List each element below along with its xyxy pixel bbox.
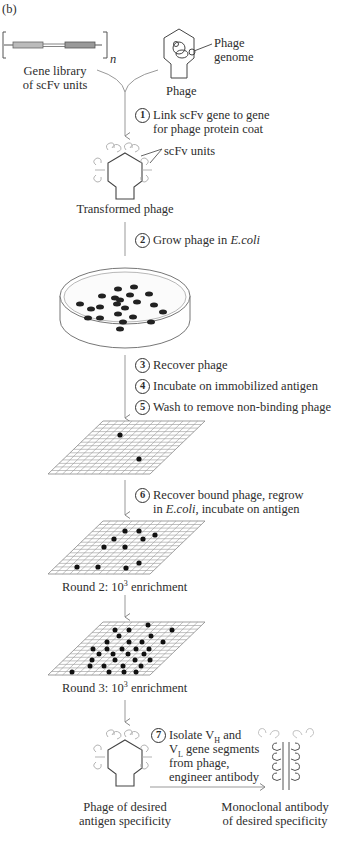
step-7-line2-suffix: gene segments (183, 742, 259, 756)
step-7-line3: from phage, (169, 756, 259, 770)
step-4: 4 Incubate on immobilized antigen (135, 379, 318, 394)
repeat-n-label: n (110, 52, 116, 66)
transformed-phage-icon (94, 143, 162, 199)
step-7-line2-prefix: V (169, 742, 178, 756)
merge-curve-left (97, 70, 125, 92)
phage-genome-label-line2: genome (214, 50, 254, 64)
step-7: 7 Isolate VH and VL gene segments from p… (151, 728, 259, 784)
step-1: 1 Link scFv gene to gene for phage prote… (135, 108, 270, 136)
gene-library-label-line1: Gene library (10, 64, 100, 78)
antigen-grid-round1 (48, 421, 205, 474)
transformed-phage-label: Transformed phage (65, 202, 185, 216)
step-7-line1: Isolate VH and (169, 728, 259, 742)
step-5: 5 Wash to remove non-binding phage (135, 400, 331, 415)
step-7-line2: VL gene segments (169, 742, 259, 756)
phage-desired-line1: Phage of desired (60, 800, 190, 814)
step-3: 3 Recover phage (135, 358, 228, 373)
step-number-badge: 6 (135, 488, 150, 503)
panel-label: (b) (2, 2, 17, 16)
step-6-line2-prefix: in (153, 502, 166, 516)
phage-genome-label: Phage genome (214, 36, 254, 64)
step-1-text: Link scFv gene to gene for phage protein… (153, 108, 270, 136)
gene-library-label: Gene library of scFv units (10, 64, 100, 92)
round-3-label: Round 3: 103 enrichment (62, 681, 187, 695)
step-6: 6 Recover bound phage, regrow in E.coli,… (135, 488, 304, 516)
step-6-line2-suffix: , incubate on antigen (195, 502, 299, 516)
scfv-units-label: scFv units (164, 144, 215, 158)
step-1-line1: Link scFv gene to gene (153, 108, 270, 122)
phage-desired-line2: antigen specificity (60, 814, 190, 828)
antibody-line2: of desired specificity (205, 814, 343, 828)
step-number-badge: 5 (135, 400, 150, 415)
antigen-grid-round2 (48, 521, 205, 574)
step-6-line2: in E.coli, incubate on antigen (153, 502, 304, 516)
petri-dish-icon (60, 268, 190, 348)
step-3-text: Recover phage (153, 358, 228, 372)
antibody-icon (258, 729, 313, 791)
step-2-text-prefix: Grow phage in (153, 233, 230, 247)
step-number-badge: 7 (151, 728, 166, 743)
step-4-text: Incubate on immobilized antigen (153, 379, 318, 393)
phage-label: Phage (166, 84, 197, 98)
step-7-text: Isolate VH and VL gene segments from pha… (169, 728, 259, 784)
phage-desired-label: Phage of desired antigen specificity (60, 800, 190, 828)
step-6-organism: E.coli (166, 502, 196, 516)
antigen-grid-round3 (48, 622, 205, 675)
step-2-text: Grow phage in E.coli (153, 233, 260, 247)
step-number-badge: 3 (135, 358, 150, 373)
step-1-line2: for phage protein coat (153, 122, 270, 136)
step-7-line1-prefix: Isolate V (169, 728, 214, 742)
phage-icon (164, 29, 212, 78)
step-5-text: Wash to remove non-binding phage (153, 400, 331, 414)
round-2-prefix: Round 2: 10 (62, 580, 124, 594)
step-7-line1-suffix: and (220, 728, 241, 742)
phage-genome-label-line1: Phage (214, 36, 254, 50)
round-2-label: Round 2: 103 enrichment (62, 580, 187, 594)
gene-library-label-line2: of scFv units (10, 78, 100, 92)
step-6-text: Recover bound phage, regrow in E.coli, i… (153, 488, 304, 516)
step-number-badge: 1 (135, 108, 150, 123)
selected-phage-icon (94, 730, 152, 786)
step-number-badge: 4 (135, 379, 150, 394)
step-2: 2 Grow phage in E.coli (135, 233, 260, 248)
gene-library-icon (3, 32, 107, 58)
merge-curve-right (125, 70, 158, 92)
round-3-prefix: Round 3: 10 (62, 681, 124, 695)
step-6-line1: Recover bound phage, regrow (153, 488, 304, 502)
round-2-suffix: enrichment (128, 580, 187, 594)
antibody-label: Monoclonal antibody of desired specifici… (205, 800, 343, 828)
round-3-suffix: enrichment (128, 681, 187, 695)
step-number-badge: 2 (135, 233, 150, 248)
antibody-line1: Monoclonal antibody (205, 800, 343, 814)
step-2-organism: E.coli (230, 233, 260, 247)
step-7-line4: engineer antibody (169, 770, 259, 784)
